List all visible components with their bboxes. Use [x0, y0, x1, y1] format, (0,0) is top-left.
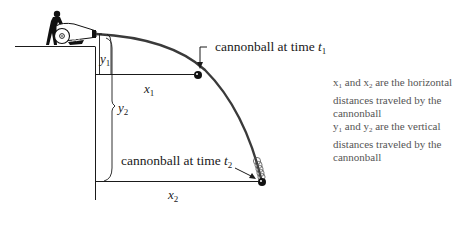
callout-t2-text: cannonball at time	[121, 153, 224, 168]
callout-t1-sub: 1	[322, 46, 327, 56]
x2-sub: 2	[174, 194, 179, 204]
cannon-icon	[55, 23, 97, 45]
callout-arrow-t1	[200, 47, 207, 64]
callout-t1: cannonball at time t1	[215, 40, 326, 56]
y1-sub: 1	[106, 58, 111, 68]
label-y1: y1	[100, 52, 110, 68]
cannonball-t2-highlight	[260, 180, 262, 182]
note-and: and	[342, 76, 363, 88]
label-x1: x1	[144, 82, 154, 98]
callout-t1-text: cannonball at time	[215, 39, 318, 54]
callout-arrow-t2	[235, 168, 253, 177]
note-vertical: y1 and y2 are the vertical distances tra…	[333, 120, 453, 165]
x1-sub: 1	[150, 88, 155, 98]
note-and: and	[342, 120, 363, 132]
label-y2: y2	[118, 101, 128, 117]
cliff	[15, 47, 96, 201]
label-x2: x2	[168, 188, 178, 204]
cannonball-t2	[258, 178, 266, 186]
y2-sub: 2	[124, 107, 129, 117]
callout-t2: cannonball at time t2	[121, 154, 232, 170]
note-horizontal: x1 and x2 are the horizontal distances t…	[333, 76, 453, 121]
cannonball-t1-highlight	[196, 73, 198, 75]
callout-t2-sub: 2	[228, 160, 233, 170]
